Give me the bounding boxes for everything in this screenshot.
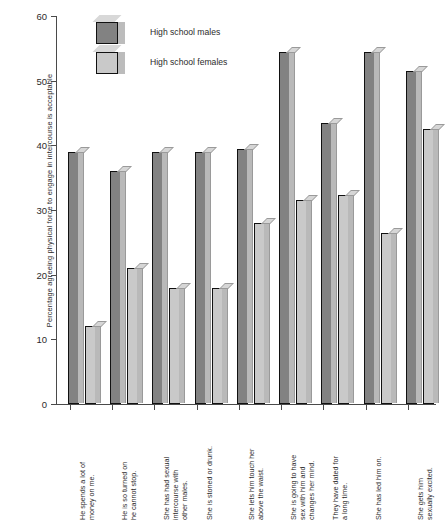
bar-top-face: [75, 147, 90, 153]
x-axis-category-label: She lets him touch herabove the waist.: [247, 410, 265, 520]
bar-females: [381, 233, 392, 404]
bar-top-face: [328, 118, 343, 124]
y-axis-tick-label: 0: [16, 399, 47, 410]
y-axis-tick-label: 10: [16, 334, 47, 345]
y-axis-tick-label: 30: [16, 205, 47, 216]
bar-side-face: [306, 201, 312, 403]
x-axis-category-labels: He spends a lot ofmoney on me.He is so t…: [56, 410, 436, 520]
bar-females: [212, 288, 223, 404]
y-axis-title: Percentage agreeing physical force to en…: [45, 61, 54, 341]
bar-males: [152, 152, 163, 404]
bar-side-face: [264, 224, 270, 403]
bar-side-face: [137, 269, 143, 403]
x-axis-category-label: She is going to havesex with him andchan…: [289, 410, 317, 520]
y-axis-tick-label: 20: [16, 269, 47, 280]
y-axis-tick-label: 60: [16, 11, 47, 22]
category-label-line: above the waist.: [256, 410, 265, 520]
category-label-line: She has led him on.: [374, 410, 383, 520]
bar-side-face: [289, 53, 295, 403]
bar-top-face: [176, 283, 191, 289]
bar-top-face: [202, 147, 217, 153]
bar-males: [279, 52, 290, 404]
legend-label-females: High school females: [150, 57, 227, 67]
bar-females: [85, 326, 96, 404]
legend-swatch-males-icon: [96, 22, 118, 44]
bar-side-face: [247, 150, 253, 403]
bar-top-face: [430, 124, 445, 130]
bar-side-face: [179, 289, 185, 403]
bar-top-face: [371, 47, 386, 53]
category-label-line: changes her mind.: [308, 410, 317, 520]
legend-swatch-side-icon: [118, 52, 125, 74]
y-axis-line: [56, 16, 57, 404]
bar-males: [110, 171, 121, 404]
legend-swatch-females-icon: [96, 52, 118, 74]
x-axis-category-label: She gets himsexually excited.: [416, 410, 434, 520]
bar-side-face: [433, 130, 439, 403]
y-axis-tick: [51, 210, 56, 211]
bar-top-face: [134, 263, 149, 269]
bar-males: [237, 149, 248, 404]
bar-top-face: [244, 144, 259, 150]
bar-side-face: [162, 153, 168, 403]
x-axis-category-label: She has had sexualintercourse withother …: [162, 410, 190, 520]
y-axis-tick: [51, 404, 56, 405]
category-label-line: She is going to have: [289, 410, 298, 520]
bar-females: [423, 129, 434, 404]
y-axis-tick: [51, 145, 56, 146]
bar-females: [254, 223, 265, 404]
category-label-line: he cannot stop.: [129, 410, 138, 520]
bar-top-face: [117, 166, 132, 172]
bar-males: [406, 71, 417, 404]
category-label-line: sex with him and: [298, 410, 307, 520]
bar-side-face: [95, 327, 101, 403]
bar-top-face: [92, 321, 107, 327]
bar-top-face: [388, 228, 403, 234]
category-label-line: She is stoned or drunk.: [205, 410, 214, 520]
category-label-line: He is so turned on: [120, 410, 129, 520]
bar-chart: Percentage agreeing physical force to en…: [0, 0, 446, 520]
x-axis-category-label: She has led him on.: [374, 410, 383, 520]
bar-top-face: [159, 147, 174, 153]
y-axis-tick-label: 50: [16, 75, 47, 86]
bar-females: [169, 288, 180, 404]
legend-label-males: High school males: [150, 27, 220, 37]
bar-top-face: [261, 218, 276, 224]
x-axis-category-label: She is stoned or drunk.: [205, 410, 214, 520]
category-label-line: money on me.: [87, 410, 96, 520]
bar-side-face: [78, 153, 84, 403]
bar-top-face: [413, 66, 428, 72]
bar-males: [195, 152, 206, 404]
x-axis-category-label: He spends a lot ofmoney on me.: [78, 410, 96, 520]
bar-males: [364, 52, 375, 404]
bar-top-face: [345, 190, 360, 196]
bar-males: [68, 152, 79, 404]
category-label-line: She gets him: [416, 410, 425, 520]
bar-males: [321, 123, 332, 404]
y-axis-tick: [51, 275, 56, 276]
category-label-line: a long time.: [341, 410, 350, 520]
y-axis-tick: [51, 339, 56, 340]
legend-swatch-side-icon: [118, 22, 125, 44]
bar-side-face: [205, 153, 211, 403]
bar-top-face: [286, 47, 301, 53]
category-label-line: They have dated for: [331, 410, 340, 520]
bar-top-face: [219, 283, 234, 289]
category-label-line: sexually excited.: [425, 410, 434, 520]
category-label-line: He spends a lot of: [78, 410, 87, 520]
x-axis-category-label: He is so turned onhe cannot stop.: [120, 410, 138, 520]
bar-side-face: [416, 72, 422, 403]
y-axis-tick: [51, 81, 56, 82]
bar-females: [127, 268, 138, 404]
bar-side-face: [374, 53, 380, 403]
plot-area: 0102030405060: [56, 16, 436, 404]
bar-side-face: [348, 196, 354, 403]
y-axis-tick: [51, 16, 56, 17]
bar-top-face: [303, 195, 318, 201]
category-label-line: She lets him touch her: [247, 410, 256, 520]
bar-side-face: [391, 234, 397, 403]
y-axis-tick-label: 40: [16, 140, 47, 151]
bar-side-face: [222, 289, 228, 403]
bar-females: [338, 195, 349, 404]
bar-side-face: [120, 172, 126, 403]
